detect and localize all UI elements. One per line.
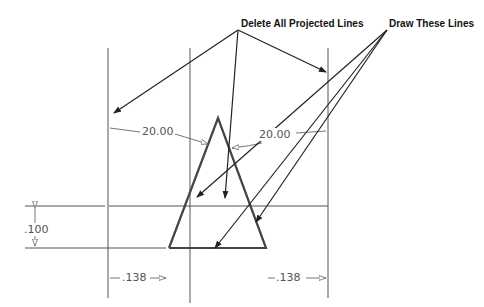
sketch-diagram: Delete All Projected Lines Draw These Li… bbox=[0, 0, 484, 307]
projected-lines bbox=[25, 48, 328, 303]
trapezoid-profile bbox=[169, 118, 266, 248]
draw-these-lines-callout: Draw These Lines bbox=[389, 18, 474, 29]
angle-dimension-left: 20.00 bbox=[141, 125, 175, 138]
sketch-geometry bbox=[0, 0, 484, 307]
offset-dimension-left: .138 bbox=[121, 271, 148, 284]
offset-dimension-right: .138 bbox=[275, 271, 302, 284]
angle-dimension-right: 20.00 bbox=[258, 128, 292, 141]
height-dimension: .100 bbox=[23, 223, 50, 236]
delete-projected-lines-callout: Delete All Projected Lines bbox=[241, 18, 363, 29]
